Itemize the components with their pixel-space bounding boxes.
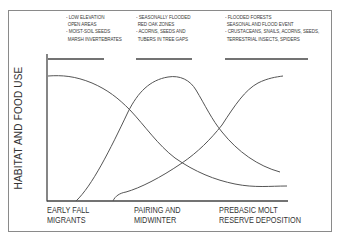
phase-label-line: PREBASIC MOLT xyxy=(219,205,301,215)
phase-1-label: EARLY FALL MIGRANTS xyxy=(47,205,89,225)
phase-2-label: PAIRING AND MIDWINTER xyxy=(134,205,181,225)
early-fall-habitat-curve xyxy=(48,76,287,187)
phase-label-line: PAIRING AND xyxy=(134,205,181,215)
midwinter-habitat-curve xyxy=(76,77,280,201)
phase-label-line: MIDWINTER xyxy=(134,215,181,225)
phase-label-line: RESERVE DEPOSITION xyxy=(219,215,301,225)
y-axis-label: HABITAT AND FOOD USE xyxy=(13,58,24,198)
phase-label-line: MIGRANTS xyxy=(47,215,89,225)
phase-3-label: PREBASIC MOLT RESERVE DEPOSITION xyxy=(219,205,301,225)
phase-label-line: EARLY FALL xyxy=(47,205,89,215)
